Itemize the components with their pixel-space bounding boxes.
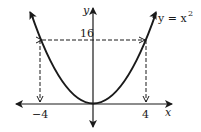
- equation-label: y = x: [157, 12, 187, 25]
- x-tick-neg4: −4: [32, 108, 48, 121]
- x-axis-label: x: [165, 106, 172, 119]
- parabola-chart: 16 −4 4 x y y = x 2: [0, 0, 201, 132]
- y-tick-16: 16: [80, 27, 94, 40]
- equation-exponent: 2: [188, 9, 193, 18]
- x-tick-4: 4: [142, 108, 149, 121]
- y-axis-label: y: [82, 4, 90, 17]
